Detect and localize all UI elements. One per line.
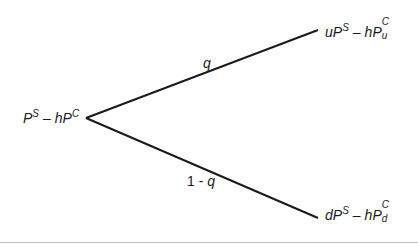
root-coef: h [55,110,63,126]
root-base-sup: S [32,108,39,119]
up-node-label: uPS–hPCu [325,23,391,39]
down-term-sub: d [382,214,388,224]
up-term: P [372,24,381,40]
down-probability-label: 1 - q [187,173,215,189]
down-term-sup: C [382,200,389,210]
root-base: P [23,110,32,126]
up-term-sup: C [382,17,389,27]
up-probability-label: q [203,55,211,71]
root-term: P [63,110,72,126]
down-prob-var: q [207,173,215,189]
down-base: P [333,207,342,223]
root-node-label: PS–hPC [23,111,79,125]
down-base-sup: S [342,205,349,216]
down-op: – [349,207,365,223]
up-op: – [349,24,365,40]
up-prefix: u [325,24,333,40]
up-prob-var: q [203,55,211,71]
up-base: P [333,24,342,40]
up-term-sub: u [382,31,388,41]
down-node-label: dPS–hPCd [325,206,391,222]
down-term: P [372,207,381,223]
up-base-sup: S [342,22,349,33]
root-term-sup: C [72,108,79,119]
up-term-supsub: Cu [382,23,391,37]
down-branch-line [86,118,318,218]
bottom-divider [0,242,418,243]
down-prob-prefix: 1 - [187,173,207,189]
root-op: – [39,110,55,126]
down-term-supsub: Cd [382,206,391,220]
up-branch-line [86,30,318,118]
down-prefix: d [325,207,333,223]
